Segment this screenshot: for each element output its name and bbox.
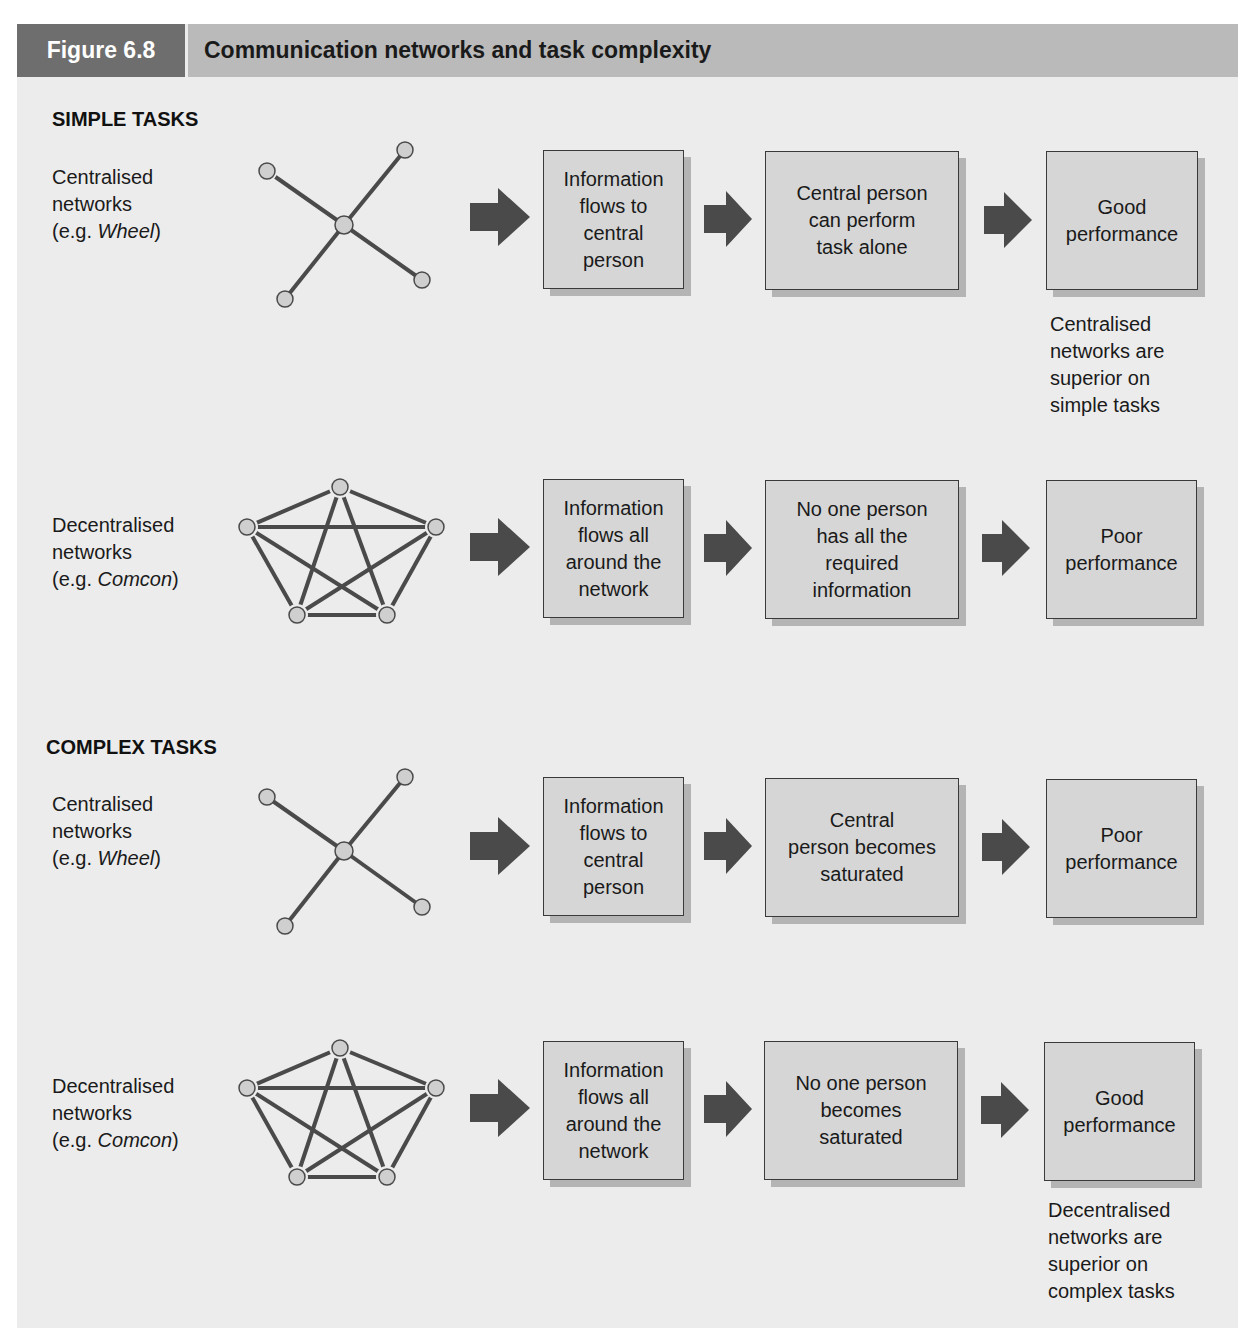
wheel-network-icon bbox=[250, 762, 440, 942]
network-label-line1: Centralised bbox=[52, 164, 161, 191]
step-box: Information flows all around the network bbox=[543, 479, 684, 618]
figure-title: Communication networks and task complexi… bbox=[188, 24, 1238, 77]
network-label-line2: networks bbox=[52, 818, 161, 845]
example-name: Comcon bbox=[98, 568, 172, 590]
step-box: Information flows to central person bbox=[543, 777, 684, 916]
step-box: Information flows to central person bbox=[543, 150, 684, 289]
network-label-centralised: Centralised networks (e.g. Wheel) bbox=[52, 164, 161, 245]
comcon-network-icon bbox=[230, 1039, 450, 1189]
arrow-right-icon bbox=[981, 1082, 1029, 1138]
section-label-complex-tasks: COMPLEX TASKS bbox=[46, 736, 217, 759]
outcome-box: Good performance bbox=[1046, 151, 1198, 290]
network-label-line2: networks bbox=[52, 539, 179, 566]
arrow-right-icon bbox=[704, 818, 752, 874]
network-label-line1: Centralised bbox=[52, 791, 161, 818]
arrow-right-icon bbox=[470, 188, 530, 246]
network-label-line2: networks bbox=[52, 191, 161, 218]
step-box: Central person can perform task alone bbox=[765, 151, 959, 290]
network-example: (e.g. Wheel) bbox=[52, 845, 161, 872]
network-example: (e.g. Comcon) bbox=[52, 1127, 179, 1154]
network-example: (e.g. Wheel) bbox=[52, 218, 161, 245]
network-label-line1: Decentralised bbox=[52, 512, 179, 539]
arrow-right-icon bbox=[984, 192, 1032, 248]
example-name: Wheel bbox=[98, 847, 155, 869]
figure-number: Figure 6.8 bbox=[17, 24, 185, 77]
step-box: No one person has all the required infor… bbox=[765, 480, 959, 619]
outcome-box: Good performance bbox=[1044, 1042, 1195, 1181]
network-label-centralised: Centralised networks (e.g. Wheel) bbox=[52, 791, 161, 872]
arrow-right-icon bbox=[470, 518, 530, 576]
section-label-simple-tasks: SIMPLE TASKS bbox=[52, 108, 198, 131]
network-label-decentralised: Decentralised networks (e.g. Comcon) bbox=[52, 1073, 179, 1154]
conclusion-note: Decentralised networks are superior on c… bbox=[1048, 1197, 1175, 1305]
arrow-right-icon bbox=[704, 191, 752, 247]
example-name: Wheel bbox=[98, 220, 155, 242]
arrow-right-icon bbox=[982, 520, 1030, 576]
arrow-right-icon bbox=[982, 819, 1030, 875]
network-label-line1: Decentralised bbox=[52, 1073, 179, 1100]
outcome-box: Poor performance bbox=[1046, 779, 1197, 918]
arrow-right-icon bbox=[704, 520, 752, 576]
network-label-decentralised: Decentralised networks (e.g. Comcon) bbox=[52, 512, 179, 593]
example-name: Comcon bbox=[98, 1129, 172, 1151]
wheel-network-icon bbox=[250, 135, 440, 315]
conclusion-note: Centralised networks are superior on sim… bbox=[1050, 311, 1165, 419]
arrow-right-icon bbox=[470, 817, 530, 875]
arrow-right-icon bbox=[470, 1079, 530, 1137]
comcon-network-icon bbox=[230, 478, 450, 628]
network-example: (e.g. Comcon) bbox=[52, 566, 179, 593]
outcome-box: Poor performance bbox=[1046, 480, 1197, 619]
step-box: Information flows all around the network bbox=[543, 1041, 684, 1180]
network-label-line2: networks bbox=[52, 1100, 179, 1127]
step-box: Central person becomes saturated bbox=[765, 778, 959, 917]
arrow-right-icon bbox=[704, 1081, 752, 1137]
step-box: No one person becomes saturated bbox=[764, 1041, 958, 1180]
